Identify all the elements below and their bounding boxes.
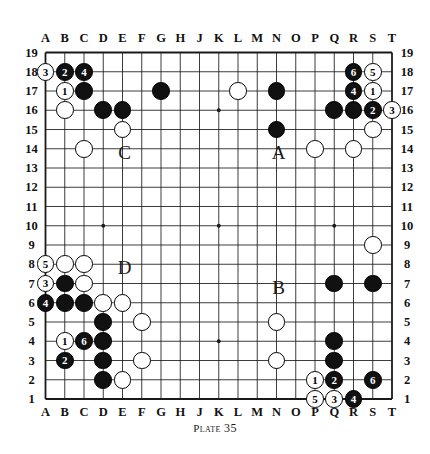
stone-black-S2: 6 bbox=[364, 371, 382, 389]
stone-white-B16 bbox=[56, 101, 74, 119]
stone-black-D16 bbox=[94, 101, 112, 119]
stone-move-number: 5 bbox=[307, 393, 323, 404]
stone-white-E6 bbox=[114, 294, 132, 312]
stone-white-E2 bbox=[114, 371, 132, 389]
stone-move-number: 3 bbox=[326, 393, 342, 404]
stone-black-B6 bbox=[56, 294, 74, 312]
board-label-c: C bbox=[113, 143, 137, 162]
stone-move-number: 5 bbox=[38, 259, 54, 270]
stone-black-A6: 4 bbox=[37, 294, 55, 312]
stone-white-C14 bbox=[75, 140, 93, 158]
stone-move-number: 6 bbox=[365, 374, 381, 385]
stone-move-number: 6 bbox=[346, 66, 362, 77]
plate-caption-number: 35 bbox=[224, 421, 237, 435]
stone-black-C4: 6 bbox=[75, 332, 93, 350]
stone-black-D4 bbox=[94, 332, 112, 350]
stone-black-R18: 6 bbox=[345, 63, 363, 81]
stone-move-number: 1 bbox=[57, 336, 73, 347]
stone-black-N17 bbox=[268, 82, 286, 100]
stone-black-R17: 4 bbox=[345, 82, 363, 100]
stone-black-S16: 2 bbox=[364, 101, 382, 119]
stone-move-number: 4 bbox=[346, 85, 362, 96]
star-point bbox=[332, 224, 336, 228]
stone-white-R14 bbox=[345, 140, 363, 158]
stone-move-number: 4 bbox=[76, 66, 92, 77]
stone-white-S9 bbox=[364, 236, 382, 254]
plate-caption: Plate 35 bbox=[0, 421, 430, 436]
stone-black-B18: 2 bbox=[56, 63, 74, 81]
stone-black-G17 bbox=[152, 82, 170, 100]
stone-black-C17 bbox=[75, 82, 93, 100]
stone-move-number: 3 bbox=[38, 278, 54, 289]
stone-move-number: 3 bbox=[384, 105, 400, 116]
stone-white-S15 bbox=[364, 121, 382, 139]
stone-white-F5 bbox=[133, 313, 151, 331]
stone-black-Q4 bbox=[325, 332, 343, 350]
stone-white-S17: 1 bbox=[364, 82, 382, 100]
stone-white-D6 bbox=[94, 294, 112, 312]
stone-white-C8 bbox=[75, 255, 93, 273]
stone-white-L17 bbox=[229, 82, 247, 100]
board-label-b: B bbox=[267, 278, 291, 297]
stone-black-C18: 4 bbox=[75, 63, 93, 81]
stone-white-B17: 1 bbox=[56, 82, 74, 100]
stone-black-R1: 4 bbox=[345, 390, 363, 408]
stone-move-number: 1 bbox=[307, 374, 323, 385]
stone-move-number: 1 bbox=[57, 85, 73, 96]
stone-white-P14 bbox=[306, 140, 324, 158]
stone-move-number: 4 bbox=[346, 393, 362, 404]
star-point bbox=[217, 108, 221, 112]
stone-move-number: 3 bbox=[38, 66, 54, 77]
stone-move-number: 2 bbox=[365, 105, 381, 116]
stone-black-B3: 2 bbox=[56, 352, 74, 370]
stone-white-P1: 5 bbox=[306, 390, 324, 408]
star-point bbox=[101, 224, 105, 228]
stone-move-number: 5 bbox=[365, 66, 381, 77]
go-board-figure: ABCDEFGHJKLMNOPQRST ABCDEFGHJKLMNOPQRST … bbox=[0, 0, 430, 454]
stone-black-B7 bbox=[56, 275, 74, 293]
stone-white-B4: 1 bbox=[56, 332, 74, 350]
stone-black-S7 bbox=[364, 275, 382, 293]
stone-black-C6 bbox=[75, 294, 93, 312]
stone-move-number: 2 bbox=[57, 66, 73, 77]
stone-white-Q1: 3 bbox=[325, 390, 343, 408]
plate-caption-word: Plate bbox=[193, 422, 221, 434]
stone-white-N5 bbox=[268, 313, 286, 331]
stone-white-F3 bbox=[133, 352, 151, 370]
stone-move-number: 4 bbox=[38, 297, 54, 308]
stone-black-Q2: 2 bbox=[325, 371, 343, 389]
stone-white-P2: 1 bbox=[306, 371, 324, 389]
stone-move-number: 2 bbox=[326, 374, 342, 385]
star-point bbox=[217, 339, 221, 343]
board-label-d: D bbox=[113, 258, 137, 277]
stone-move-number: 2 bbox=[57, 355, 73, 366]
stone-white-S18: 5 bbox=[364, 63, 382, 81]
stone-white-B8 bbox=[56, 255, 74, 273]
stone-black-D2 bbox=[94, 371, 112, 389]
star-point bbox=[217, 224, 221, 228]
stone-black-D5 bbox=[94, 313, 112, 331]
stone-move-number: 6 bbox=[76, 336, 92, 347]
stone-white-C7 bbox=[75, 275, 93, 293]
stone-move-number: 1 bbox=[365, 85, 381, 96]
board-label-a: A bbox=[267, 143, 291, 162]
stone-black-Q16 bbox=[325, 101, 343, 119]
stone-white-A18: 3 bbox=[37, 63, 55, 81]
stone-white-T16: 3 bbox=[383, 101, 401, 119]
